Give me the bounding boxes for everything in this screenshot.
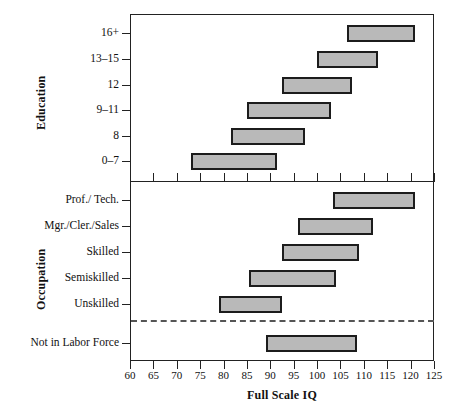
labor-force-separator <box>131 320 434 322</box>
x-axis-tick-label: 95 <box>282 370 306 381</box>
x-axis-tick <box>130 361 131 369</box>
y-axis-label: 12 <box>0 79 119 91</box>
x-axis-tick <box>200 361 201 369</box>
x-axis-tick-upper-panel <box>434 173 435 181</box>
range-bar <box>282 244 359 261</box>
x-axis-tick-upper-panel <box>270 173 271 181</box>
x-axis-tick-upper-panel <box>200 173 201 181</box>
range-bar <box>231 128 306 145</box>
x-axis-tick-upper-panel <box>317 173 318 181</box>
x-axis-tick <box>153 361 154 369</box>
y-axis-label: Unskilled <box>0 298 119 310</box>
y-axis-label: Mgr./Cler./Sales <box>0 220 119 232</box>
x-axis-tick <box>247 361 248 369</box>
y-axis-tick <box>122 252 131 253</box>
y-axis-tick <box>122 110 131 111</box>
x-axis-tick-upper-panel <box>364 173 365 181</box>
y-axis-label: Not in Labor Force <box>0 337 119 349</box>
range-bar <box>266 335 357 352</box>
y-axis-tick <box>122 161 131 162</box>
x-axis-tick-label: 100 <box>305 370 329 381</box>
y-axis-label: 16+ <box>0 27 119 39</box>
y-axis-tick <box>122 136 131 137</box>
range-bar <box>282 77 352 94</box>
y-axis-tick <box>122 226 131 227</box>
x-axis-tick <box>411 361 412 369</box>
x-axis-tick-upper-panel <box>130 173 131 181</box>
y-axis-tick <box>122 59 131 60</box>
x-axis-tick <box>177 361 178 369</box>
x-axis-tick <box>340 361 341 369</box>
x-axis-tick-upper-panel <box>153 173 154 181</box>
y-axis-label: 0–7 <box>0 155 119 167</box>
y-axis-label: 13–15 <box>0 53 119 65</box>
y-axis-label: 8 <box>0 130 119 142</box>
x-axis-tick <box>317 361 318 369</box>
x-axis-tick-label: 80 <box>212 370 236 381</box>
x-axis-tick-upper-panel <box>340 173 341 181</box>
y-axis-label: Semiskilled <box>0 272 119 284</box>
panel-divider <box>130 181 435 182</box>
y-axis-tick <box>122 200 131 201</box>
x-axis-tick-label: 125 <box>422 370 446 381</box>
range-bar <box>219 296 282 313</box>
x-axis-tick <box>294 361 295 369</box>
range-bar <box>247 102 331 119</box>
plot-frame <box>130 14 434 361</box>
range-bar <box>347 25 415 42</box>
y-axis-label: Skilled <box>0 246 119 258</box>
x-axis-tick-label: 110 <box>352 370 376 381</box>
x-axis-tick <box>434 361 435 369</box>
y-axis-tick <box>122 304 131 305</box>
x-axis-tick-label: 70 <box>165 370 189 381</box>
x-axis-tick-upper-panel <box>247 173 248 181</box>
x-axis-tick <box>270 361 271 369</box>
x-axis-tick-label: 65 <box>141 370 165 381</box>
y-axis-label: Prof./ Tech. <box>0 194 119 206</box>
range-bar <box>317 51 378 68</box>
x-axis-tick-label: 85 <box>235 370 259 381</box>
x-axis-tick-label: 115 <box>375 370 399 381</box>
x-axis-tick-upper-panel <box>294 173 295 181</box>
x-axis-tick <box>224 361 225 369</box>
y-axis-tick <box>122 33 131 34</box>
range-bar <box>191 153 278 170</box>
x-axis-title: Full Scale IQ <box>130 388 434 403</box>
x-axis-tick-label: 120 <box>399 370 423 381</box>
y-axis-tick <box>122 85 131 86</box>
x-axis-tick-upper-panel <box>411 173 412 181</box>
x-axis-tick <box>364 361 365 369</box>
x-axis-tick <box>387 361 388 369</box>
x-axis-tick-label: 90 <box>258 370 282 381</box>
x-axis-tick-label: 105 <box>328 370 352 381</box>
chart-root: Education Occupation Full Scale IQ 16+13… <box>0 0 454 419</box>
range-bar <box>249 270 336 287</box>
y-axis-tick <box>122 278 131 279</box>
x-axis-tick-label: 75 <box>188 370 212 381</box>
range-bar <box>298 218 373 235</box>
y-axis-label: 9–11 <box>0 104 119 116</box>
x-axis-tick-upper-panel <box>387 173 388 181</box>
x-axis-tick-upper-panel <box>177 173 178 181</box>
x-axis-tick-label: 60 <box>118 370 142 381</box>
range-bar <box>333 192 415 209</box>
x-axis-tick-upper-panel <box>224 173 225 181</box>
y-axis-tick <box>122 343 131 344</box>
